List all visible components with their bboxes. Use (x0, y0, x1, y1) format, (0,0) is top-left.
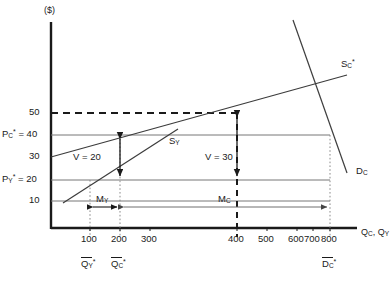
chart-canvas (0, 0, 392, 290)
x-tick-800: 800 (321, 234, 337, 244)
dcstar-base: D (322, 258, 329, 269)
curve-label-sc-star: SC* (341, 58, 355, 70)
curve-label-sy: SY (169, 136, 180, 147)
dcstar-bar-group: DC (322, 259, 334, 270)
qc-sub: C (118, 262, 123, 269)
annotation-my: MY (96, 194, 108, 205)
below-axis-label-qy-star: QY* (81, 258, 95, 270)
sy-sub: Y (175, 139, 179, 146)
mc-sub: C (226, 197, 231, 204)
curves (51, 20, 347, 203)
y-tick-50: 50 (29, 107, 40, 117)
y-axis-label: ($) (44, 6, 55, 15)
x-axis-sub-y: Y (385, 230, 389, 237)
annotation-mc: MC (218, 194, 231, 205)
x-tick-100: 100 (81, 234, 97, 244)
qc-sup: * (123, 258, 126, 265)
below-axis-label-dc-star: DC* (322, 258, 336, 270)
qy-bar-group: QY (81, 259, 93, 270)
x-axis-sep: , Q (373, 227, 385, 237)
x-tick-500: 500 (258, 234, 274, 244)
x-tick-200: 200 (111, 234, 127, 244)
x-axis-label: QC, QY (361, 228, 389, 238)
sc-sup: * (352, 58, 355, 65)
y-tick-30: 30 (29, 151, 40, 161)
dc-base: D (356, 165, 363, 176)
economics-tariff-diagram: ($) 50 30 10 PC* = 40 PY* = 20 100 200 3… (0, 0, 392, 290)
x-tick-600: 600 (288, 234, 304, 244)
x-tick-700: 700 (304, 234, 320, 244)
y-price-label-pc: PC* = 40 (2, 128, 37, 140)
mc-base: M (218, 193, 226, 204)
qy-sub: Y (88, 262, 92, 269)
dcstar-sup: * (334, 258, 337, 265)
supply-curve-sc-star (51, 75, 347, 157)
my-base: M (96, 193, 104, 204)
annotation-v30: V = 30 (205, 152, 233, 162)
annotation-arrows (93, 117, 327, 207)
qy-sup: * (93, 258, 96, 265)
py-eq: = 20 (15, 173, 36, 184)
x-tick-400: 400 (228, 234, 244, 244)
my-sub: Y (104, 197, 108, 204)
y-tick-10: 10 (29, 195, 40, 205)
qc-bar-group: QC (111, 259, 123, 270)
x-tick-300: 300 (141, 234, 157, 244)
dc-sub: C (363, 169, 368, 176)
annotation-v20: V = 20 (73, 152, 101, 162)
demand-curve-dc (293, 20, 347, 173)
pc-eq: = 40 (16, 128, 37, 139)
below-axis-label-qc-star: QC* (111, 258, 126, 270)
y-price-label-py: PY* = 20 (2, 173, 37, 185)
curve-label-dc: DC (356, 166, 368, 177)
dcstar-sub: C (329, 262, 334, 269)
x-axis-q1: Q (361, 227, 368, 237)
vertical-reference-lines (90, 113, 330, 237)
